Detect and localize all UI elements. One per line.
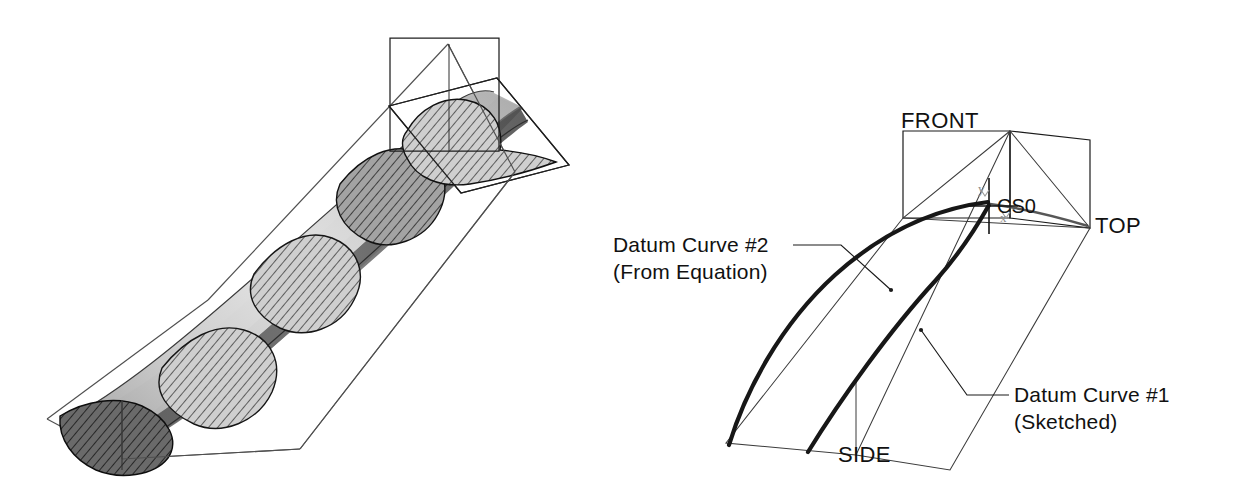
cs0-axis-glyph-y: y (978, 181, 985, 196)
cross-section-5 (403, 99, 557, 185)
leader-datum-curve-1-arrow (919, 328, 923, 332)
datum-curve-1-label-line2: (Sketched) (1014, 410, 1118, 433)
left-panel-swept-surface (47, 38, 569, 475)
front-plane-label: FRONT (901, 108, 979, 133)
technical-diagram-svg: y x FRONT TOP SIDE CS0 Datum Curve #2 (F… (0, 0, 1234, 497)
leader-datum-curve-1 (921, 330, 1009, 395)
datum-curve-2-label-line2: (From Equation) (613, 260, 768, 283)
figure-root: y x FRONT TOP SIDE CS0 Datum Curve #2 (F… (0, 0, 1234, 497)
datum-curve-1-path (808, 205, 989, 452)
datum-curve-2-label-line1: Datum Curve #2 (613, 233, 769, 256)
cross-section-3 (250, 235, 360, 333)
side-plane-label: SIDE (838, 442, 891, 467)
datum-curve-1-label-line1: Datum Curve #1 (1014, 383, 1170, 406)
construction-edges (856, 131, 1090, 455)
leader-datum-curve-2-arrow (889, 288, 893, 292)
top-plane-label: TOP (1095, 213, 1141, 238)
cs0-label: CS0 (997, 195, 1036, 217)
right-panel-datum-layout: y x FRONT TOP SIDE CS0 Datum Curve #2 (F… (613, 108, 1170, 470)
